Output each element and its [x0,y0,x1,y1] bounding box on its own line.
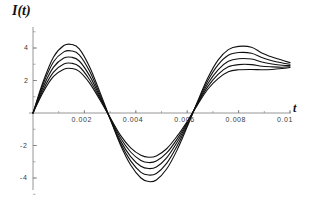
x-tick-label: 0.008 [226,116,247,123]
axes-group [29,27,291,190]
y-axis-label: I(t) [12,3,31,19]
y-tick-label: 2 [24,77,29,84]
y-tick-label: 4 [24,44,29,51]
y-tick-label: -4 [20,174,27,181]
x-tick-label: 0.006 [174,116,195,123]
plot-canvas [0,0,314,216]
y-tick-label: -2 [20,142,27,149]
x-tick-label: 0.004 [123,116,144,123]
chart-figure: I(t) t 0.0020.0040.0060.0080.0142-2-4 [0,0,314,216]
x-tick-label: 0.002 [71,116,92,123]
x-axis-label: t [293,101,296,116]
x-tick-label: 0.01 [277,116,293,123]
